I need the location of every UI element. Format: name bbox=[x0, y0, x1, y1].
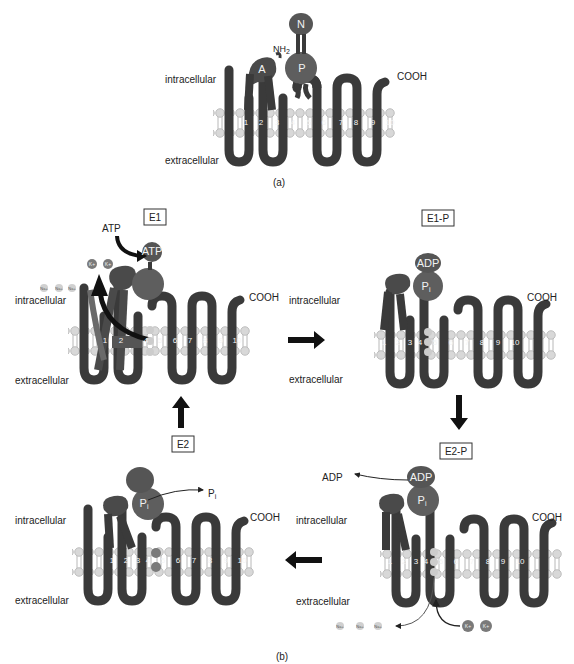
svg-text:2: 2 bbox=[402, 557, 407, 566]
domain-p-label: P bbox=[298, 62, 305, 74]
svg-text:K+: K+ bbox=[483, 623, 489, 629]
svg-text:9: 9 bbox=[219, 336, 224, 345]
domain-n-label: N bbox=[297, 18, 305, 30]
e2p-adp: ADP bbox=[410, 471, 433, 483]
svg-text:8: 8 bbox=[354, 118, 359, 127]
svg-text:10: 10 bbox=[386, 118, 395, 127]
e2-intracellular: intracellular bbox=[15, 515, 67, 526]
svg-text:7: 7 bbox=[188, 336, 193, 345]
e1-label: E1 bbox=[149, 212, 162, 223]
svg-text:1: 1 bbox=[103, 336, 108, 345]
svg-text:2: 2 bbox=[396, 338, 401, 347]
svg-text:4: 4 bbox=[418, 338, 423, 347]
e1-cooh: COOH bbox=[249, 292, 279, 303]
e1-intracellular: intracellular bbox=[15, 295, 67, 306]
svg-text:5: 5 bbox=[158, 336, 163, 345]
caption-b: (b) bbox=[276, 651, 288, 662]
e2p-label: E2-P bbox=[445, 446, 468, 457]
e2-extracellular: extracellular bbox=[15, 595, 70, 606]
svg-text:Na+: Na+ bbox=[336, 624, 344, 629]
svg-text:10: 10 bbox=[516, 557, 525, 566]
svg-text:7: 7 bbox=[465, 338, 470, 347]
e1p-adp: ADP bbox=[417, 257, 440, 269]
svg-text:2: 2 bbox=[259, 118, 264, 127]
e2p-cooh: COOH bbox=[532, 512, 562, 523]
svg-text:Na+: Na+ bbox=[68, 286, 76, 291]
svg-text:1: 1 bbox=[244, 118, 249, 127]
arrow-e1-to-e1p bbox=[288, 331, 325, 349]
svg-text:3: 3 bbox=[408, 338, 413, 347]
svg-text:1: 1 bbox=[382, 338, 387, 347]
svg-text:8: 8 bbox=[480, 338, 485, 347]
svg-text:10: 10 bbox=[511, 338, 520, 347]
svg-text:Na+: Na+ bbox=[374, 624, 382, 629]
e1p-label: E1-P bbox=[427, 213, 450, 224]
svg-text:10: 10 bbox=[238, 556, 247, 565]
svg-text:5: 5 bbox=[433, 338, 438, 347]
e1-extracellular: extracellular bbox=[15, 375, 70, 386]
svg-text:9: 9 bbox=[501, 557, 506, 566]
svg-text:6: 6 bbox=[454, 557, 459, 566]
arrow-e2p-to-e2 bbox=[285, 551, 322, 569]
svg-text:8: 8 bbox=[486, 557, 491, 566]
intracellular-label: intracellular bbox=[165, 74, 217, 85]
svg-text:Na+: Na+ bbox=[40, 286, 48, 291]
svg-text:2: 2 bbox=[119, 336, 124, 345]
state-e2: E2 bbox=[72, 436, 254, 601]
svg-text:6: 6 bbox=[322, 118, 327, 127]
domain-a-label: A bbox=[258, 63, 266, 75]
e1-atp-bound: ATP bbox=[142, 245, 163, 257]
svg-text:4: 4 bbox=[291, 118, 296, 127]
svg-text:6: 6 bbox=[449, 338, 454, 347]
e2p-extracellular: extracellular bbox=[296, 596, 351, 607]
svg-text:6: 6 bbox=[176, 556, 181, 565]
svg-text:3: 3 bbox=[414, 557, 419, 566]
svg-text:7: 7 bbox=[339, 118, 344, 127]
svg-text:9: 9 bbox=[224, 556, 229, 565]
svg-text:7: 7 bbox=[192, 556, 197, 565]
e1p-intracellular: intracellular bbox=[289, 295, 341, 306]
nh2-label: NH2 bbox=[273, 44, 290, 55]
svg-text:K+: K+ bbox=[105, 261, 111, 267]
svg-text:1: 1 bbox=[110, 556, 115, 565]
na-k-atpase-diagram: 12 34 56 78 910 A P N NH2 COOH intracell… bbox=[0, 0, 574, 664]
svg-text:Na+: Na+ bbox=[356, 624, 364, 629]
svg-text:1: 1 bbox=[388, 557, 393, 566]
arrow-e1p-to-e2p bbox=[450, 395, 468, 430]
svg-text:Na+: Na+ bbox=[55, 286, 63, 291]
e1-atp-label: ATP bbox=[102, 223, 121, 234]
e1p-cooh: COOH bbox=[527, 292, 557, 303]
cooh-label: COOH bbox=[397, 71, 427, 82]
svg-text:4: 4 bbox=[146, 556, 151, 565]
svg-text:6: 6 bbox=[173, 336, 178, 345]
arrow-e2-to-e1 bbox=[172, 396, 190, 428]
svg-text:3: 3 bbox=[136, 556, 141, 565]
svg-text:8: 8 bbox=[203, 336, 208, 345]
svg-text:9: 9 bbox=[496, 338, 501, 347]
svg-text:5: 5 bbox=[161, 556, 166, 565]
caption-a: (a) bbox=[273, 177, 285, 188]
svg-text:8: 8 bbox=[208, 556, 213, 565]
svg-text:7: 7 bbox=[470, 557, 475, 566]
e1p-extracellular: extracellular bbox=[289, 374, 344, 385]
svg-text:2: 2 bbox=[124, 556, 129, 565]
state-e2p: E2-P Na+ Na+ Na+ K+ K+ bbox=[336, 443, 562, 632]
svg-text:3: 3 bbox=[275, 118, 280, 127]
state-e1: E1 K+ K+ Na+ Na+ Na+ bbox=[40, 209, 250, 380]
svg-text:9: 9 bbox=[371, 118, 376, 127]
e2-pi-out: Pi bbox=[208, 488, 217, 500]
svg-text:5: 5 bbox=[307, 118, 312, 127]
svg-text:K+: K+ bbox=[465, 623, 471, 629]
svg-text:K+: K+ bbox=[89, 261, 95, 267]
svg-text:4: 4 bbox=[144, 336, 149, 345]
e2-label: E2 bbox=[177, 439, 190, 450]
e2p-intracellular: intracellular bbox=[296, 515, 348, 526]
svg-text:10: 10 bbox=[233, 336, 242, 345]
e2p-adp-out: ADP bbox=[322, 472, 343, 483]
svg-text:5: 5 bbox=[439, 557, 444, 566]
extracellular-label: extracellular bbox=[165, 155, 220, 166]
e2-cooh: COOH bbox=[250, 512, 280, 523]
svg-text:4: 4 bbox=[424, 557, 429, 566]
